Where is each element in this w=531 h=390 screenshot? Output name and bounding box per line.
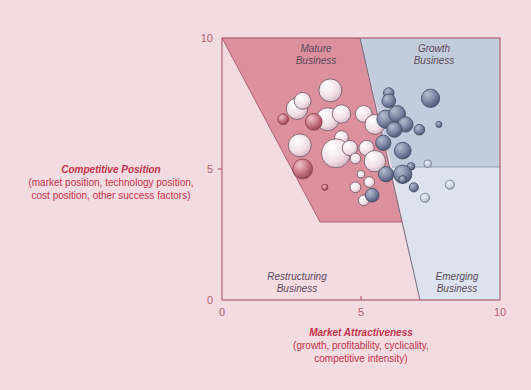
- x-tick-5: 5: [358, 306, 364, 318]
- bubble: [399, 176, 407, 184]
- bubble: [350, 182, 361, 193]
- bubble: [357, 170, 365, 178]
- x-tick-10: 10: [494, 306, 506, 318]
- bubble: [424, 160, 432, 168]
- bubble: [278, 114, 289, 125]
- x-axis-subtitle-1: (growth, profitability, cyclicality,: [222, 339, 500, 352]
- y-tick-0: 0: [207, 294, 213, 306]
- bubble: [382, 94, 396, 108]
- label-growth: Growth: [418, 43, 451, 54]
- x-axis-title: Market Attractiveness: [222, 326, 500, 339]
- y-axis-label: Competitive Position (market position, t…: [0, 163, 222, 202]
- bubble: [350, 153, 361, 164]
- label-emerging-2: Business: [437, 283, 478, 294]
- bubble: [414, 124, 425, 135]
- bubble: [409, 183, 418, 192]
- label-mature: Mature: [300, 43, 332, 54]
- x-axis-label: Market Attractiveness (growth, profitabi…: [222, 326, 500, 365]
- label-restructuring: Restructuring: [267, 271, 327, 282]
- y-tick-10: 10: [201, 32, 213, 44]
- y-axis-title: Competitive Position: [0, 163, 222, 176]
- bubble: [364, 177, 375, 188]
- portfolio-chart: 10 5 0 0 5 10 Mature Business Growth Bus…: [0, 0, 531, 390]
- bubble: [420, 193, 429, 202]
- y-axis-subtitle-1: (market position, technology position,: [0, 176, 222, 189]
- bubble: [365, 188, 379, 202]
- bubble: [436, 121, 442, 127]
- bubble: [378, 167, 393, 182]
- bubble: [322, 184, 328, 190]
- bubble: [421, 89, 439, 107]
- bubble: [288, 134, 311, 157]
- label-growth-2: Business: [414, 55, 455, 66]
- bubble: [445, 180, 454, 189]
- x-axis-subtitle-2: competitive intensity): [222, 352, 500, 365]
- bubble: [332, 105, 350, 123]
- label-restructuring-2: Business: [277, 283, 318, 294]
- bubble: [376, 135, 391, 150]
- y-axis-subtitle-2: cost position, other success factors): [0, 189, 222, 202]
- x-tick-0: 0: [219, 306, 225, 318]
- bubble: [387, 122, 402, 137]
- bubble: [294, 92, 311, 109]
- bubble: [305, 113, 322, 130]
- label-mature-2: Business: [296, 55, 337, 66]
- bubble: [293, 159, 313, 179]
- bubble: [319, 79, 342, 102]
- label-emerging: Emerging: [436, 271, 479, 282]
- bubble: [394, 142, 411, 159]
